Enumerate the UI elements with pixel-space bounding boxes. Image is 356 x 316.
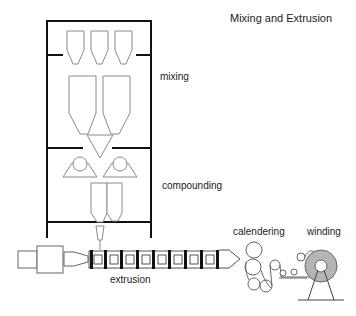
stage-label-mixing: mixing xyxy=(160,71,189,82)
stage-label-compounding: compounding xyxy=(162,180,222,191)
diagram-title: Mixing and Extrusion xyxy=(230,12,332,24)
extruder-barrel xyxy=(89,250,240,269)
extruder-drive xyxy=(18,246,88,273)
mixing-extrusion-diagram: Mixing and Extrusion mixing compounding … xyxy=(0,0,356,316)
calender-rolls xyxy=(245,242,310,292)
stage-label-calendering: calendering xyxy=(233,226,285,237)
stage-label-winding: winding xyxy=(307,226,341,237)
compounding-mixers xyxy=(63,157,137,177)
stage-label-extrusion: extrusion xyxy=(110,274,151,285)
small-hoppers xyxy=(67,31,132,64)
compounding-hoppers xyxy=(91,183,122,250)
mixing-hoppers xyxy=(69,76,130,158)
